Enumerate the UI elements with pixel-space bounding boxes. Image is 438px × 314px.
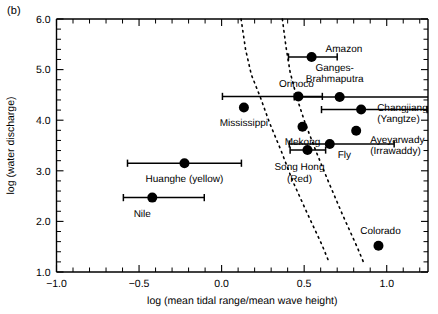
x-tick-label: −0.5 — [129, 278, 150, 290]
data-point-Ganges-Brahmaputra — [335, 92, 345, 102]
y-tick-label: 2.0 — [36, 216, 51, 228]
point-label-Orinoco: Orinoco — [279, 79, 314, 90]
data-point-Mekong — [298, 122, 308, 132]
y-tick-label: 6.0 — [36, 14, 51, 26]
point-label-Song Hong: Song Hong — [274, 162, 324, 173]
y-tick-label: 3.0 — [36, 166, 51, 178]
y-tick-label: 5.0 — [36, 64, 51, 76]
point-label-Nile: Nile — [134, 209, 152, 220]
point-label-Song Hong: (Red) — [287, 174, 312, 185]
x-axis-title: log (mean tidal range/mean wave height) — [147, 295, 337, 307]
point-label-Ayeyarwady: (Irrawaddy) — [370, 146, 421, 157]
y-axis-title: log (water discharge) — [5, 96, 17, 194]
data-point-Orinoco — [293, 91, 303, 101]
data-point-Mississippi — [239, 103, 249, 113]
x-tick-label: −1.0 — [46, 278, 67, 290]
point-label-Mississippi: Mississippi — [220, 118, 268, 129]
point-label-Ganges-Brahmaputra: Brahmaputra — [306, 74, 364, 85]
data-point-Amazon — [307, 52, 317, 62]
point-label-Ayeyarwady: Ayeyarwady — [370, 135, 424, 146]
point-label-Changjiang: (Yangtze) — [377, 114, 420, 125]
scatter-plot: −1.0−0.50.00.51.01.02.03.04.05.06.0 Amaz… — [0, 0, 438, 314]
point-label-Fly: Fly — [338, 150, 351, 161]
y-tick-label: 1.0 — [36, 267, 51, 279]
data-point-Changjiang — [356, 105, 366, 115]
figure-panel: (b) −1.0−0.50.00.51.01.02.03.04.05.06.0 … — [0, 0, 438, 314]
y-tick-label: 4.0 — [36, 115, 51, 127]
point-label-Huanghe: Huanghe (yellow) — [146, 174, 224, 185]
data-point-Huanghe — [179, 158, 189, 168]
point-labels: AmazonGanges-BrahmaputraOrinocoChangjian… — [134, 44, 428, 237]
point-label-Amazon: Amazon — [326, 44, 363, 55]
plot-axes: −1.0−0.50.00.51.01.02.03.04.05.06.0 — [36, 14, 428, 290]
data-point-Nile — [147, 193, 157, 203]
x-tick-label: 0.5 — [297, 278, 312, 290]
point-label-Mekong: Mekong — [285, 137, 321, 148]
axis-titles: log (mean tidal range/mean wave height)l… — [5, 96, 337, 307]
data-point-Fly — [325, 139, 335, 149]
data-point-Ayeyarwady — [351, 126, 361, 136]
x-tick-label: 0.0 — [214, 278, 229, 290]
point-label-Colorado: Colorado — [360, 226, 401, 237]
point-label-Ganges-Brahmaputra: Ganges- — [315, 63, 353, 74]
point-label-Changjiang: Changjiang — [377, 103, 428, 114]
x-tick-label: 1.0 — [379, 278, 394, 290]
data-point-Colorado — [373, 241, 383, 251]
